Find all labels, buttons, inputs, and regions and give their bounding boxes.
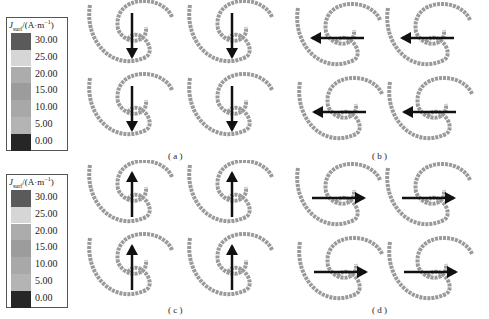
color-swatch [11, 190, 31, 207]
scale-label: 5.00 [35, 276, 53, 286]
color-swatch [11, 134, 31, 151]
legend-top: Jsurf/(A·m−1) 30.0025.0020.0015.0010.005… [6, 17, 68, 151]
scale-label: 30.00 [35, 35, 58, 45]
arrow-icon [226, 171, 238, 182]
arrow-icon [310, 32, 321, 44]
panel-c: ( c ) [80, 160, 280, 319]
color-swatch [11, 100, 31, 117]
scale-label: 15.00 [35, 242, 58, 252]
arrow-icon [312, 106, 323, 118]
arrow-icon [226, 244, 238, 255]
color-swatch [11, 33, 31, 50]
arrow-icon [447, 266, 458, 278]
color-scale: 30.0025.0020.0015.0010.005.000.00 [11, 190, 67, 312]
scale-label: 20.00 [35, 226, 58, 236]
color-swatch [11, 83, 31, 100]
spiral-array [280, 0, 489, 150]
scale-label: 25.00 [35, 52, 58, 62]
scale-label: 5.00 [35, 119, 53, 129]
scale-label: 20.00 [35, 69, 58, 79]
color-swatch [11, 240, 31, 257]
scale-label: 0.00 [35, 136, 53, 146]
color-scale: 30.0025.0020.0015.0010.005.000.00 [11, 33, 67, 155]
spiral-array [80, 160, 280, 310]
color-swatch [11, 224, 31, 241]
caption-c: ( c ) [168, 305, 183, 315]
spiral-array [80, 0, 280, 150]
panel-a: ( a ) [80, 0, 280, 160]
scale-label: 10.00 [35, 259, 58, 269]
scale-label: 15.00 [35, 85, 58, 95]
arrow-icon [400, 32, 411, 44]
arrow-icon [126, 244, 138, 255]
color-swatch [11, 274, 31, 291]
arrow-icon [445, 192, 456, 204]
arrow-icon [226, 121, 238, 132]
color-swatch [11, 207, 31, 224]
color-swatch [11, 67, 31, 84]
arrow-icon [355, 192, 366, 204]
arrow-icon [126, 48, 138, 59]
legend-title: Jsurf/(A·m−1) [7, 18, 67, 33]
legend-title: Jsurf/(A·m−1) [7, 175, 67, 190]
scale-label: 30.00 [35, 192, 58, 202]
scale-label: 0.00 [35, 293, 53, 303]
panel-b: ( b ) [280, 0, 489, 160]
arrow-icon [357, 266, 368, 278]
arrow-icon [402, 106, 413, 118]
arrow-icon [126, 121, 138, 132]
color-swatch [11, 117, 31, 134]
color-swatch [11, 50, 31, 67]
caption-d: ( d ) [372, 305, 387, 315]
spiral-array [280, 160, 489, 310]
scale-label: 10.00 [35, 102, 58, 112]
arrow-icon [226, 48, 238, 59]
color-swatch [11, 257, 31, 274]
legend-bottom: Jsurf/(A·m−1) 30.0025.0020.0015.0010.005… [6, 174, 68, 308]
scale-label: 25.00 [35, 209, 58, 219]
color-swatch [11, 291, 31, 308]
arrow-icon [126, 171, 138, 182]
panel-d: ( d ) [280, 160, 489, 319]
